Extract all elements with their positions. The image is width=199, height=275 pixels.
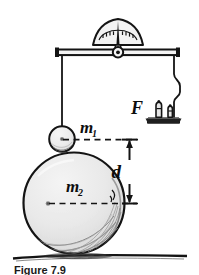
large-mass-label-subscript: 2 (77, 187, 83, 198)
physics-figure: F m 1 (0, 0, 199, 275)
figure-illustration: F m 1 (0, 0, 199, 275)
balance-pivot (113, 47, 123, 57)
force-label: F (130, 98, 143, 118)
small-mass-sphere (49, 126, 75, 152)
small-mass-label: m 1 (80, 118, 97, 139)
figure-caption: Figure 7.9 (14, 264, 66, 275)
weight-cylinder-2 (168, 104, 172, 117)
large-mass-sphere (24, 153, 125, 258)
small-mass-label-subscript: 1 (92, 128, 97, 139)
distance-label: d (112, 161, 122, 182)
suspension-string-right (174, 56, 180, 121)
weight-pan (146, 117, 182, 123)
weight-cylinder-1 (156, 100, 162, 117)
ground-line (13, 253, 187, 261)
